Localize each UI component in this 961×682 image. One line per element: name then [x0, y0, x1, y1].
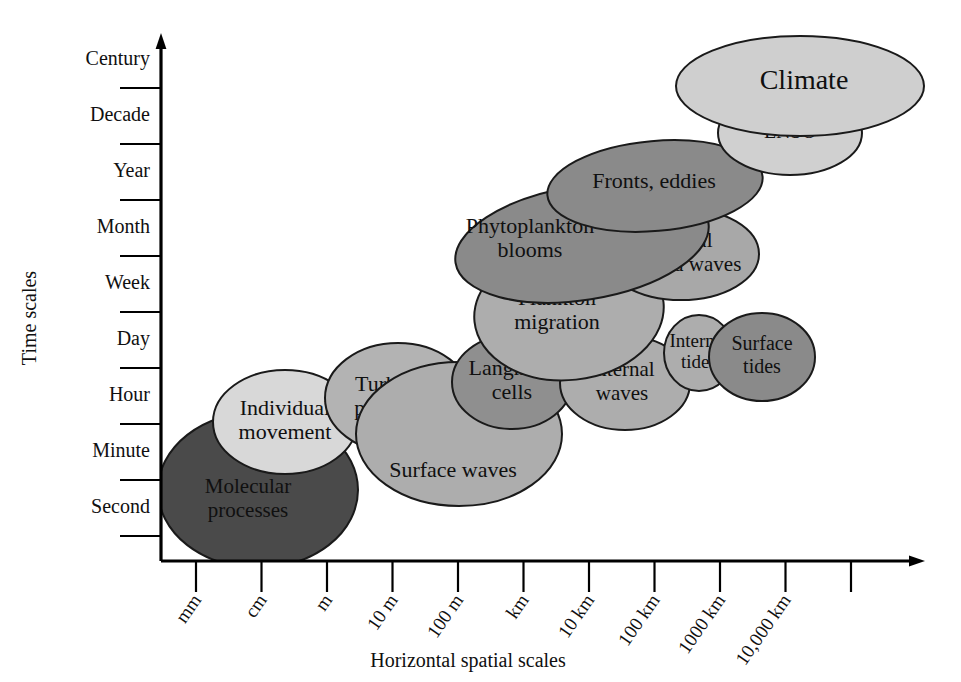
bubble-label: waves [596, 381, 648, 405]
bubble-climate[interactable]: Climate [676, 36, 924, 136]
y-tick-label-second: Second [91, 495, 150, 517]
bubble-label: Fronts, eddies [592, 168, 715, 193]
y-tick-label-century: Century [86, 47, 150, 70]
y-tick-label-week: Week [105, 271, 150, 293]
bubble-label: Surface [731, 332, 792, 354]
bubble-label: Molecular [205, 474, 291, 498]
bubble-label: blooms [498, 237, 563, 262]
bubble-label: movement [239, 419, 332, 444]
y-axis-title: Time scales [18, 271, 40, 365]
bubble-label: cells [492, 379, 532, 404]
y-tick-label-hour: Hour [109, 383, 150, 405]
y-tick-label-year: Year [113, 159, 150, 181]
bubble-label: processes [208, 498, 288, 522]
bubble-label: Individual [240, 395, 330, 420]
bubble-label: Climate [760, 64, 849, 95]
scales-bubble-diagram: MolecularprocessesIndividualmovementTurb… [0, 0, 961, 682]
bubble-label: Surface waves [389, 457, 517, 482]
x-axis-title: Horizontal spatial scales [370, 649, 566, 672]
bubble-label: migration [514, 309, 600, 334]
bubble-surface-tides[interactable]: Surfacetides [709, 313, 815, 401]
y-tick-label-day: Day [117, 327, 150, 350]
y-tick-label-minute: Minute [92, 439, 150, 461]
y-tick-label-decade: Decade [90, 103, 150, 125]
bubble-label: tides [743, 355, 781, 377]
y-tick-label-month: Month [97, 215, 150, 237]
